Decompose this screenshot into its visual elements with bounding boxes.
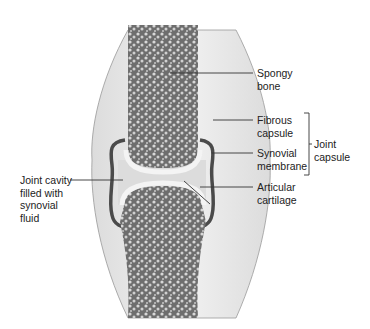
label-line: capsule xyxy=(314,151,350,164)
synovial-joint-diagram: Spongy bone Fibrous capsule Synovial mem… xyxy=(0,0,370,329)
lower-bone xyxy=(120,186,206,318)
label-joint-capsule: Joint capsule xyxy=(314,138,350,163)
upper-bone xyxy=(128,25,198,168)
label-articular-cartilage: Articular cartilage xyxy=(257,181,297,206)
label-line: capsule xyxy=(257,127,293,140)
label-line: cartilage xyxy=(257,194,297,207)
label-line: bone xyxy=(257,80,293,93)
label-joint-cavity: Joint cavity filled with synovial fluid xyxy=(20,174,72,224)
joint-illustration xyxy=(0,0,370,329)
label-line: Fibrous xyxy=(257,114,293,127)
label-line: filled with xyxy=(20,187,72,200)
label-line: Synovial xyxy=(257,147,307,160)
label-synovial-membrane: Synovial membrane xyxy=(257,147,307,172)
label-line: synovial xyxy=(20,199,72,212)
label-fibrous-capsule: Fibrous capsule xyxy=(257,114,293,139)
label-line: Articular xyxy=(257,181,297,194)
label-line: Spongy xyxy=(257,67,293,80)
label-spongy-bone: Spongy bone xyxy=(257,67,293,92)
label-line: Joint cavity xyxy=(20,174,72,187)
label-line: membrane xyxy=(257,160,307,173)
label-line: fluid xyxy=(20,212,72,225)
label-line: Joint xyxy=(314,138,350,151)
